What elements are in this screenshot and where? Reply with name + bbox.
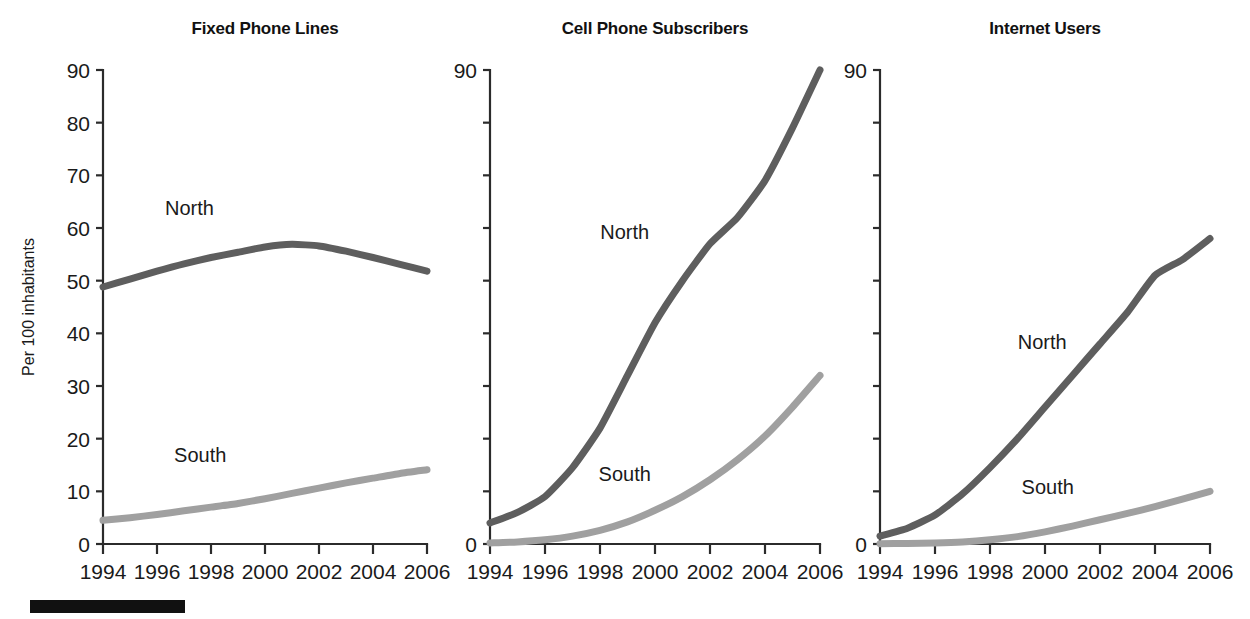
y-tick-label: 80 xyxy=(67,112,90,135)
x-tick-label: 1994 xyxy=(80,560,127,583)
chart-panel-3: Internet Users09019941996199820002002200… xyxy=(844,19,1234,583)
y-tick-label: 90 xyxy=(67,59,90,82)
y-tick-label: 0 xyxy=(465,533,477,556)
y-tick-label: 60 xyxy=(67,217,90,240)
series-label-south: South xyxy=(174,444,226,466)
x-tick-label: 2004 xyxy=(1132,560,1179,583)
series-line-north xyxy=(103,244,427,287)
x-tick-label: 1998 xyxy=(577,560,624,583)
x-tick-label: 1996 xyxy=(522,560,569,583)
y-tick-label: 20 xyxy=(67,428,90,451)
footer-rule xyxy=(30,600,185,613)
x-tick-label: 2000 xyxy=(242,560,289,583)
y-tick-label: 90 xyxy=(844,59,867,82)
chart-svg: Fixed Phone Lines01020304050607080901994… xyxy=(0,0,1250,619)
panel-title-1: Fixed Phone Lines xyxy=(192,19,339,38)
y-tick-label: 10 xyxy=(67,480,90,503)
chart-figure: Fixed Phone Lines01020304050607080901994… xyxy=(0,0,1250,619)
x-tick-label: 2004 xyxy=(350,560,397,583)
x-tick-label: 1994 xyxy=(857,560,904,583)
panel-title-3: Internet Users xyxy=(989,19,1101,38)
series-line-south xyxy=(490,375,820,542)
x-tick-label: 2004 xyxy=(742,560,789,583)
x-tick-label: 1998 xyxy=(967,560,1014,583)
series-label-south: South xyxy=(1022,476,1074,498)
y-tick-label: 90 xyxy=(454,59,477,82)
series-line-north xyxy=(490,70,820,523)
panel-title-2: Cell Phone Subscribers xyxy=(562,19,748,38)
panel-axes-3 xyxy=(880,70,1210,544)
chart-panel-1: Fixed Phone Lines01020304050607080901994… xyxy=(67,19,451,583)
y-tick-label: 0 xyxy=(855,533,867,556)
panel-axes-1 xyxy=(103,70,427,544)
series-label-north: North xyxy=(1018,331,1067,353)
x-tick-label: 1996 xyxy=(134,560,181,583)
x-tick-label: 2000 xyxy=(1022,560,1069,583)
x-tick-label: 1996 xyxy=(912,560,959,583)
x-tick-label: 1994 xyxy=(467,560,514,583)
chart-panel-2: Cell Phone Subscribers090199419961998200… xyxy=(454,19,844,583)
x-tick-label: 1998 xyxy=(188,560,235,583)
y-tick-label: 70 xyxy=(67,164,90,187)
panel-axes-2 xyxy=(490,70,820,544)
series-label-south: South xyxy=(599,463,651,485)
y-tick-label: 50 xyxy=(67,270,90,293)
y-axis-title: Per 100 inhabitants xyxy=(20,238,37,376)
y-tick-label: 0 xyxy=(78,533,90,556)
x-tick-label: 2006 xyxy=(1187,560,1234,583)
series-label-north: North xyxy=(165,197,214,219)
x-tick-label: 2002 xyxy=(296,560,343,583)
x-tick-label: 2002 xyxy=(687,560,734,583)
series-label-north: North xyxy=(600,221,649,243)
series-line-south xyxy=(103,470,427,521)
x-tick-label: 2006 xyxy=(404,560,451,583)
y-tick-label: 30 xyxy=(67,375,90,398)
x-tick-label: 2000 xyxy=(632,560,679,583)
x-tick-label: 2006 xyxy=(797,560,844,583)
x-tick-label: 2002 xyxy=(1077,560,1124,583)
y-tick-label: 40 xyxy=(67,322,90,345)
